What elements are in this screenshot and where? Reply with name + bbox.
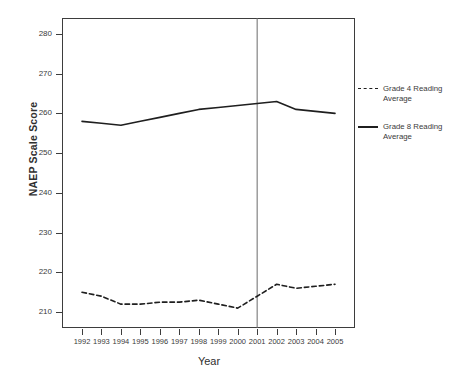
data-line-grade-8 bbox=[82, 101, 335, 125]
x-tick-mark bbox=[140, 329, 141, 335]
figure-container: NAEP Scale Score 21022023024025026027028… bbox=[0, 0, 461, 381]
series-layer bbox=[62, 18, 355, 328]
data-line-grade-4 bbox=[82, 284, 335, 308]
figure-caption bbox=[8, 371, 453, 380]
x-tick-mark bbox=[316, 329, 317, 335]
x-tick-mark bbox=[101, 329, 102, 335]
x-tick-mark bbox=[121, 329, 122, 335]
y-tick-label: 240 bbox=[16, 189, 52, 197]
x-tick-mark bbox=[238, 329, 239, 335]
x-tick-mark bbox=[277, 329, 278, 335]
y-tick-label: 250 bbox=[16, 149, 52, 157]
data-series-group bbox=[82, 101, 335, 308]
legend-entry-grade-4[interactable]: Grade 4 Reading Average bbox=[358, 84, 458, 106]
y-tick-label: 270 bbox=[16, 70, 52, 78]
y-tick-label: 260 bbox=[16, 109, 52, 117]
legend-entry-grade-8[interactable]: Grade 8 Reading Average bbox=[358, 122, 458, 144]
y-tick-label: 230 bbox=[16, 229, 52, 237]
y-tick-label: 220 bbox=[16, 268, 52, 276]
x-tick-mark bbox=[335, 329, 336, 335]
x-tick-label: 2005 bbox=[320, 338, 350, 346]
y-tick-label: 210 bbox=[16, 308, 52, 316]
solid-line-swatch-icon bbox=[358, 126, 378, 128]
x-tick-mark bbox=[199, 329, 200, 335]
x-tick-mark bbox=[160, 329, 161, 335]
x-axis-title: Year bbox=[62, 355, 356, 367]
x-tick-mark bbox=[257, 329, 258, 335]
x-tick-mark bbox=[179, 329, 180, 335]
legend-label: Grade 4 Reading Average bbox=[383, 84, 458, 104]
legend-label: Grade 8 Reading Average bbox=[383, 122, 458, 142]
dashed-line-swatch-icon bbox=[358, 88, 378, 89]
x-tick-mark bbox=[296, 329, 297, 335]
y-tick-label: 280 bbox=[16, 30, 52, 38]
x-tick-mark bbox=[218, 329, 219, 335]
x-tick-mark bbox=[82, 329, 83, 335]
chart-legend: Grade 4 Reading Average Grade 8 Reading … bbox=[358, 84, 458, 160]
